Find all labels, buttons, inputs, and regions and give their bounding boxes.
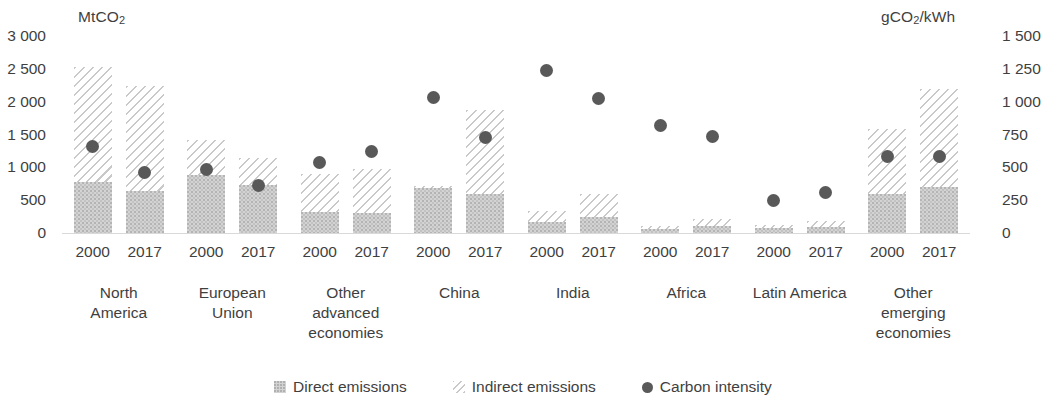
x-axis-year-label: 2017 <box>796 243 856 261</box>
right-axis-tick-label: 500 <box>1002 158 1046 176</box>
right-axis-tick-label: 1 250 <box>1002 60 1046 78</box>
bar-segment-direct-emissions[interactable] <box>126 191 164 233</box>
bar-segment-direct-emissions[interactable] <box>807 227 845 233</box>
legend-circle-marker-icon <box>642 382 653 393</box>
bar-segment-direct-emissions[interactable] <box>693 226 731 233</box>
left-axis-tick-label: 0 <box>0 224 46 242</box>
legend-item[interactable]: Direct emissions <box>274 378 407 396</box>
axis-baseline <box>62 233 970 234</box>
left-axis-tick-label: 500 <box>0 191 46 209</box>
bar-segment-direct-emissions[interactable] <box>414 188 452 233</box>
carbon-intensity-point[interactable] <box>706 130 719 143</box>
carbon-intensity-point[interactable] <box>252 179 265 192</box>
chart-legend: Direct emissionsIndirect emissionsCarbon… <box>0 378 1046 396</box>
legend-dotted-square-icon <box>274 381 286 393</box>
bar-segment-direct-emissions[interactable] <box>239 185 277 233</box>
x-axis-year-label: 2017 <box>115 243 175 261</box>
bar-segment-indirect-emissions[interactable] <box>414 186 452 188</box>
x-axis-year-label: 2000 <box>744 243 804 261</box>
x-axis-year-label: 2000 <box>290 243 350 261</box>
x-axis-year-label: 2017 <box>228 243 288 261</box>
right-axis-tick-label: 750 <box>1002 126 1046 144</box>
x-axis-year-label: 2000 <box>857 243 917 261</box>
category-label-line: economies <box>271 323 421 343</box>
x-axis-year-label: 2000 <box>403 243 463 261</box>
carbon-intensity-point[interactable] <box>479 131 492 144</box>
x-axis-year-label: 2017 <box>569 243 629 261</box>
x-axis-year-label: 2017 <box>342 243 402 261</box>
bar-segment-indirect-emissions[interactable] <box>466 110 504 193</box>
left-axis-tick-label: 2 500 <box>0 60 46 78</box>
x-axis-year-label: 2017 <box>909 243 969 261</box>
bar-segment-indirect-emissions[interactable] <box>755 225 793 228</box>
right-axis-tick-label: 250 <box>1002 191 1046 209</box>
bar-segment-indirect-emissions[interactable] <box>693 219 731 227</box>
left-axis-title-text: MtCO <box>78 8 119 25</box>
x-axis-year-label: 2000 <box>63 243 123 261</box>
x-axis-year-label: 2000 <box>517 243 577 261</box>
right-axis-title-text: gCO <box>881 8 913 25</box>
bar-segment-indirect-emissions[interactable] <box>353 169 391 214</box>
bar-segment-indirect-emissions[interactable] <box>301 174 339 212</box>
bar-segment-direct-emissions[interactable] <box>353 213 391 233</box>
left-axis-tick-label: 1 000 <box>0 158 46 176</box>
bar-segment-direct-emissions[interactable] <box>466 194 504 233</box>
x-axis-year-label: 2000 <box>176 243 236 261</box>
left-axis-title-subscript: 2 <box>119 14 125 26</box>
category-label-line: advanced <box>271 303 421 323</box>
right-axis-title: gCO2/kWh <box>881 8 955 26</box>
legend-label: Carbon intensity <box>660 378 772 396</box>
legend-label: Indirect emissions <box>472 378 596 396</box>
carbon-intensity-point[interactable] <box>767 194 780 207</box>
carbon-intensity-point[interactable] <box>933 150 946 163</box>
bar-segment-indirect-emissions[interactable] <box>641 226 679 229</box>
x-axis-year-label: 2017 <box>455 243 515 261</box>
carbon-intensity-point[interactable] <box>427 91 440 104</box>
right-axis-title-suffix: /kWh <box>919 8 955 25</box>
right-axis-tick-label: 1 000 <box>1002 93 1046 111</box>
bar-segment-direct-emissions[interactable] <box>580 217 618 233</box>
carbon-intensity-point[interactable] <box>592 92 605 105</box>
legend-label: Direct emissions <box>293 378 407 396</box>
carbon-intensity-point[interactable] <box>365 145 378 158</box>
bar-segment-direct-emissions[interactable] <box>920 187 958 233</box>
bar-segment-indirect-emissions[interactable] <box>74 67 112 183</box>
bar-segment-direct-emissions[interactable] <box>301 212 339 233</box>
bar-segment-indirect-emissions[interactable] <box>528 211 566 222</box>
plot-area <box>62 36 970 233</box>
bar-segment-indirect-emissions[interactable] <box>920 89 958 188</box>
bar-segment-direct-emissions[interactable] <box>528 222 566 233</box>
bar-segment-indirect-emissions[interactable] <box>580 194 618 216</box>
carbon-intensity-point[interactable] <box>819 186 832 199</box>
bar-segment-direct-emissions[interactable] <box>868 194 906 233</box>
bar-segment-direct-emissions[interactable] <box>187 175 225 233</box>
legend-item[interactable]: Indirect emissions <box>453 378 596 396</box>
bar-segment-direct-emissions[interactable] <box>755 228 793 233</box>
legend-item[interactable]: Carbon intensity <box>642 378 772 396</box>
category-label-line: emerging <box>838 303 988 323</box>
carbon-intensity-point[interactable] <box>654 119 667 132</box>
x-axis-year-label: 2000 <box>630 243 690 261</box>
bar-segment-direct-emissions[interactable] <box>641 229 679 233</box>
carbon-intensity-point[interactable] <box>313 156 326 169</box>
x-axis-category-label: Otheremergingeconomies <box>838 283 988 343</box>
left-axis-tick-label: 2 000 <box>0 93 46 111</box>
left-axis-title: MtCO2 <box>78 8 125 26</box>
category-label-line: economies <box>838 323 988 343</box>
left-axis-tick-label: 3 000 <box>0 27 46 45</box>
legend-hatched-square-icon <box>453 381 465 393</box>
left-axis-tick-label: 1 500 <box>0 126 46 144</box>
carbon-intensity-point[interactable] <box>540 64 553 77</box>
emissions-chart: MtCO2 gCO2/kWh 3 0002 5002 0001 5001 000… <box>0 0 1046 407</box>
right-axis-tick-label: 0 <box>1002 224 1046 242</box>
bar-segment-direct-emissions[interactable] <box>74 182 112 233</box>
bar-segment-indirect-emissions[interactable] <box>807 221 845 227</box>
carbon-intensity-point[interactable] <box>881 150 894 163</box>
category-label-line: Other <box>838 283 988 303</box>
right-axis-tick-label: 1 500 <box>1002 27 1046 45</box>
x-axis-year-label: 2017 <box>682 243 742 261</box>
